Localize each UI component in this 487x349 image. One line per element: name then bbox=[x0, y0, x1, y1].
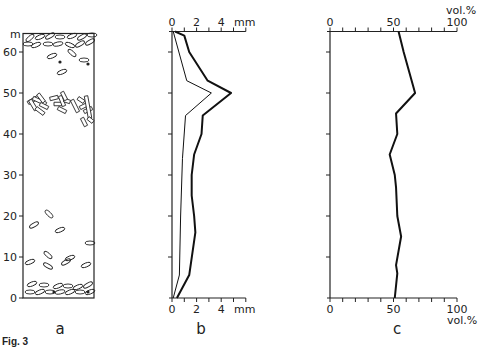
clast bbox=[53, 41, 64, 47]
clast bbox=[67, 48, 77, 57]
clast bbox=[65, 288, 76, 295]
depth-tick-label: 20 bbox=[3, 210, 17, 223]
clast bbox=[25, 290, 35, 294]
dark-clast bbox=[86, 62, 89, 65]
panel-c-label: c bbox=[393, 320, 401, 338]
panel-b-grain-size-plot: 002244mmmm bbox=[168, 16, 255, 317]
depth-tick-label: 0 bbox=[10, 292, 17, 305]
top-x-tick-label: 100 bbox=[447, 16, 468, 29]
clast bbox=[55, 289, 66, 295]
clast bbox=[55, 35, 65, 39]
dark-clast bbox=[52, 290, 55, 293]
clast bbox=[27, 280, 38, 287]
clast bbox=[75, 40, 86, 48]
clast bbox=[53, 282, 64, 289]
clast bbox=[61, 258, 72, 266]
clast bbox=[81, 261, 92, 268]
top-x-tick-label: 4 bbox=[218, 16, 225, 29]
depth-tick-label: 40 bbox=[3, 128, 17, 141]
angular-fragment bbox=[80, 117, 87, 127]
panel-c-volume-plot: 005050100100vol.%vol.% bbox=[326, 4, 477, 328]
clast bbox=[25, 258, 36, 265]
depth-tick-label: 50 bbox=[3, 87, 17, 100]
top-unit-label: mm bbox=[234, 16, 255, 29]
clast bbox=[65, 254, 76, 261]
angular-fragment bbox=[50, 95, 59, 100]
clast bbox=[63, 284, 73, 288]
clast bbox=[29, 221, 40, 229]
bottom-x-tick-label: 50 bbox=[387, 303, 401, 316]
depth-tick-label: 30 bbox=[3, 169, 17, 182]
clast bbox=[25, 33, 35, 42]
bottom-unit-label: vol.% bbox=[447, 314, 477, 327]
dark-clast bbox=[86, 290, 89, 293]
clast bbox=[39, 283, 49, 287]
angular-fragment bbox=[57, 106, 67, 113]
top-x-tick-label: 50 bbox=[387, 16, 401, 29]
bottom-x-tick-label: 0 bbox=[169, 303, 176, 316]
bottom-unit-label: mm bbox=[234, 303, 255, 316]
clast bbox=[75, 290, 85, 294]
figure-3: 0102030405060m 002244mmmm 005050100100vo… bbox=[0, 0, 487, 349]
series-line-volume-percent bbox=[390, 32, 415, 299]
clast bbox=[43, 42, 53, 46]
bottom-x-tick-label: 2 bbox=[193, 303, 200, 316]
clast bbox=[43, 262, 54, 270]
clast bbox=[35, 33, 46, 40]
clast bbox=[65, 41, 76, 48]
angular-fragment bbox=[77, 97, 85, 104]
depth-tick-label: 60 bbox=[3, 46, 17, 59]
clast bbox=[44, 209, 54, 219]
column-outline bbox=[23, 34, 94, 299]
clast bbox=[35, 288, 46, 295]
clast bbox=[57, 68, 68, 75]
series-line-thick-line bbox=[175, 32, 231, 299]
clast bbox=[79, 58, 89, 62]
top-x-tick-label: 0 bbox=[327, 16, 334, 29]
clast bbox=[47, 52, 58, 59]
depth-tick-label: 10 bbox=[3, 251, 17, 264]
clast bbox=[83, 281, 94, 289]
angular-fragment bbox=[87, 117, 94, 124]
top-x-tick-label: 2 bbox=[193, 16, 200, 29]
clast bbox=[55, 226, 66, 233]
top-unit-label: vol.% bbox=[446, 4, 476, 17]
bottom-x-tick-label: 0 bbox=[327, 303, 334, 316]
angular-fragment bbox=[70, 99, 79, 113]
panel-a-column: 0102030405060m bbox=[3, 28, 97, 306]
clast bbox=[43, 250, 53, 259]
bottom-x-tick-label: 4 bbox=[218, 303, 225, 316]
panel-b-label: b bbox=[196, 320, 206, 338]
top-x-tick-label: 0 bbox=[169, 16, 176, 29]
dark-clast bbox=[58, 60, 61, 63]
figure-label: Fig. 3 bbox=[2, 336, 29, 347]
panel-a-label: a bbox=[55, 320, 64, 338]
depth-unit-label: m bbox=[10, 28, 21, 41]
